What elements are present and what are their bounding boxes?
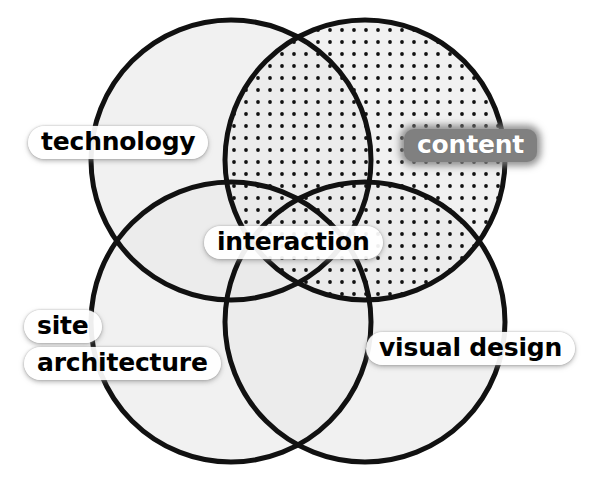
circle-label-site-architecture-line2: architecture	[24, 347, 221, 380]
circle-label-site-architecture: site architecture	[24, 310, 221, 380]
center-label-interaction: interaction	[204, 226, 383, 259]
circle-label-content: content	[404, 129, 537, 162]
circle-label-visual-design-text: visual design	[366, 332, 575, 365]
circle-label-technology-text: technology	[28, 126, 208, 159]
center-label-interaction-text: interaction	[204, 226, 383, 259]
circle-label-site-architecture-line1: site	[24, 310, 102, 343]
circle-label-content-text: content	[404, 129, 537, 162]
circle-label-technology: technology	[28, 126, 208, 159]
circle-label-visual-design: visual design	[366, 332, 575, 365]
venn-diagram: technology content site architecture vis…	[0, 0, 594, 483]
